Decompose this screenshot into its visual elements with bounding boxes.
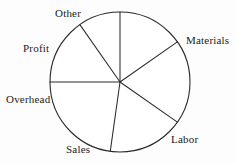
- pie-label-materials: Materials: [186, 35, 229, 46]
- pie-slice-overhead: [50, 82, 120, 151]
- pie-chart-canvas: [0, 0, 236, 163]
- pie-label-other: Other: [55, 8, 81, 19]
- pie-label-overhead: Overhead: [6, 94, 50, 105]
- pie-label-sales: Sales: [66, 144, 90, 155]
- pie-chart: Materials Labor Sales Overhead Profit Ot…: [0, 0, 236, 163]
- pie-slice-regions: [50, 12, 190, 152]
- pie-label-labor: Labor: [171, 134, 198, 145]
- pie-label-profit: Profit: [23, 43, 49, 54]
